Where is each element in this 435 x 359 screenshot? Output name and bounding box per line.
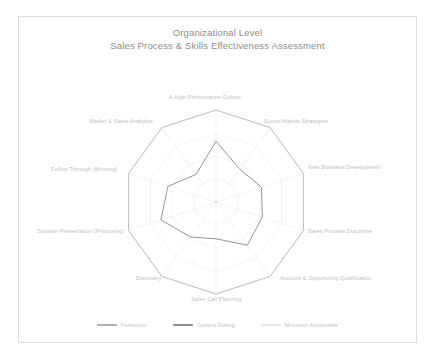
legend-label: Perfection [121,322,147,328]
axis-label-market-sales-analytics: Market & Sales Analytics [89,118,153,125]
radar-center-point [215,201,217,203]
legend-minimum-acceptable[interactable]: Minimum Acceptable [261,322,338,328]
legend-swatch-icon [261,324,281,325]
axis-label-solution-presentation-proposing-: Solution Presentation (Proposing) [37,228,124,235]
screenshot-root: Organizational Level Sales Process & Ski… [0,0,435,359]
axis-label-new-business-development: New Business Development [308,164,380,171]
radar-chart-svg [0,0,435,359]
legend-perfection[interactable]: Perfection [97,322,147,328]
axis-label-account-opportunity-qualification: Account & Opportunity Qualification [280,275,372,282]
axis-label-a-high-performance-culture: A High Performance Culture [169,94,241,101]
legend-current-rating[interactable]: Current Rating [173,322,235,328]
chart-legend: PerfectionCurrent RatingMinimum Acceptab… [0,322,435,328]
radar-axis-spoke [162,128,216,202]
axis-label-discovery: Discovery [136,275,161,282]
radar-series-current-rating [161,141,262,245]
radar-axis-spoke [162,202,216,276]
axis-label-follow-through-winning-: Follow Through (Winning) [51,166,117,173]
axis-label-sales-process-discipline: Sales Process Discipline [308,228,372,235]
axis-label-sales-call-planning: Sales Call Planning [191,296,241,303]
legend-label: Current Rating [197,322,235,328]
legend-swatch-icon [173,324,193,325]
radar-chart: A High Performance CultureSound Market S… [0,0,435,359]
legend-label: Minimum Acceptable [285,322,338,328]
axis-label-sound-market-strategies: Sound Market Strategies [264,118,328,125]
legend-swatch-icon [97,324,117,325]
